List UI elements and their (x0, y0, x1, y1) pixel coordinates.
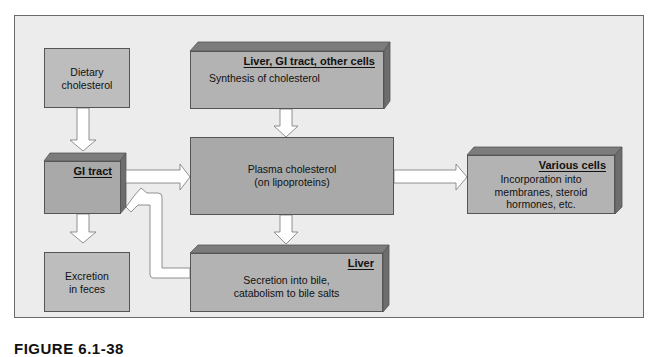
arrow-gi-to-excretion (70, 214, 96, 243)
various-3d-top (467, 147, 622, 155)
arrow-plasma-to-liver (274, 215, 298, 244)
liver-3d-side (383, 245, 389, 312)
arrow-plasma-to-various (394, 164, 467, 190)
liver-line-1: Secretion into bile, (191, 274, 382, 287)
node-liver: Liver Secretion into bile, catabolism to… (190, 253, 383, 312)
various-line-2: membranes, steroid (468, 186, 614, 199)
plasma-line-2: (on lipoproteins) (191, 176, 393, 189)
dietary-line-1: Dietary (45, 66, 129, 79)
gi-tract-3d-top (44, 153, 126, 161)
node-dietary-cholesterol: Dietary cholesterol (44, 48, 130, 108)
liver-line-2: catabolism to bile salts (191, 287, 382, 300)
figure-caption: FIGURE 6.1-38 (14, 340, 124, 357)
gi-tract-header: GI tract (73, 165, 112, 177)
plasma-line-1: Plasma cholesterol (191, 163, 393, 176)
arrow-synthesis-to-plasma (274, 109, 298, 137)
various-line-3: hormones, etc. (468, 198, 614, 211)
various-3d-side (615, 147, 622, 214)
synthesis-3d-top (190, 42, 390, 51)
arrow-liver-to-gi (126, 188, 190, 278)
excretion-line-2: in feces (45, 283, 129, 296)
synthesis-3d-side (384, 42, 390, 109)
liver-header: Liver (348, 257, 374, 269)
various-header: Various cells (539, 159, 606, 171)
dietary-line-2: cholesterol (45, 79, 129, 92)
node-plasma-cholesterol: Plasma cholesterol (on lipoproteins) (190, 137, 394, 215)
excretion-line-1: Excretion (45, 270, 129, 283)
synthesis-header: Liver, GI tract, other cells (244, 55, 375, 67)
liver-3d-top (190, 245, 389, 253)
synthesis-text: Synthesis of cholesterol (209, 72, 383, 85)
node-gi-tract: GI tract (44, 161, 121, 214)
node-synthesis: Liver, GI tract, other cells Synthesis o… (190, 51, 384, 109)
node-various-cells: Various cells Incorporation into membran… (467, 155, 615, 214)
node-excretion: Excretion in feces (44, 252, 130, 312)
various-line-1: Incorporation into (468, 173, 614, 186)
arrow-gi-to-plasma (126, 164, 190, 190)
arrow-dietary-to-gi (70, 108, 96, 151)
